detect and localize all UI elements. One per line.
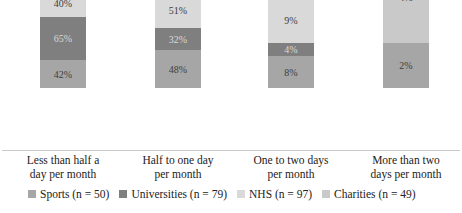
stacked-bar: 8%4%9%14% — [268, 0, 314, 88]
bar-segment: 65% — [40, 17, 86, 60]
stacked-bar: 42%65%40%57% — [40, 0, 86, 88]
bar-segment: 2% — [383, 43, 429, 88]
legend-label: Charities (n = 49) — [334, 188, 416, 200]
legend-swatch-icon — [322, 190, 330, 198]
chart-plot-area: 42%65%40%57%48%32%51%24%8%4%9%14%2%4% — [0, 0, 462, 151]
bar-segment: 4% — [383, 0, 429, 43]
legend-item: Charities (n = 49) — [322, 188, 416, 200]
x-axis-line — [2, 150, 460, 151]
x-tick-label: Less than half aday per month — [8, 153, 118, 181]
legend-swatch-icon — [28, 190, 36, 198]
legend-label: Universities (n = 79) — [131, 188, 227, 200]
legend-item: Universities (n = 79) — [119, 188, 227, 200]
bar-segment: 51% — [155, 0, 201, 28]
bar-segment: 8% — [268, 56, 314, 88]
legend-item: NHS (n = 97) — [237, 188, 312, 200]
legend: Sports (n = 50)Universities (n = 79)NHS … — [28, 188, 416, 200]
legend-swatch-icon — [237, 190, 245, 198]
bar-segment: 42% — [40, 60, 86, 88]
x-tick-label: More than twodays per month — [351, 153, 461, 181]
x-tick-label: One to two daysper month — [236, 153, 346, 181]
legend-item: Sports (n = 50) — [28, 188, 109, 200]
bar-segment: 4% — [268, 43, 314, 56]
x-tick-label: Half to one dayper month — [123, 153, 233, 181]
stacked-bar: 2%4% — [383, 0, 429, 88]
bar-segment: 32% — [155, 28, 201, 50]
legend-swatch-icon — [119, 190, 127, 198]
legend-label: Sports (n = 50) — [40, 188, 109, 200]
bar-segment: 40% — [40, 0, 86, 17]
bar-segment: 48% — [155, 50, 201, 88]
stacked-bar: 48%32%51%24% — [155, 0, 201, 88]
bar-segment: 9% — [268, 0, 314, 43]
legend-label: NHS (n = 97) — [249, 188, 312, 200]
